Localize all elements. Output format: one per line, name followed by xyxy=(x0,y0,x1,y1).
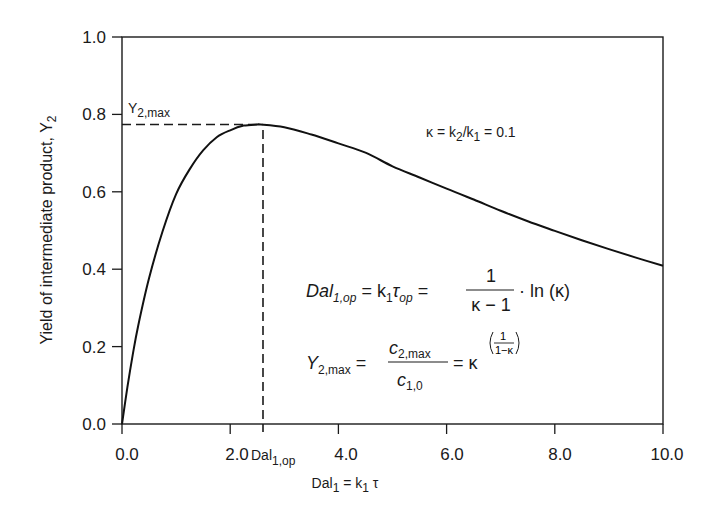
svg-text:· ln (κ): · ln (κ) xyxy=(519,281,570,301)
y-tick-label: 0.4 xyxy=(82,260,106,279)
y-tick-label: 0.8 xyxy=(82,105,106,124)
svg-text:c2,max: c2,max xyxy=(389,338,431,361)
equation-dal-op: Dal1,op = k1τop = 1 κ − 1 · ln (κ) xyxy=(306,266,570,315)
svg-text:Y2,max =: Y2,max = xyxy=(306,353,366,377)
y-tick-label: 1.0 xyxy=(82,28,106,47)
yield-curve xyxy=(122,124,663,424)
svg-text:κ − 1: κ − 1 xyxy=(471,295,511,315)
x-axis-label: Dal1 = k1 τ xyxy=(312,475,379,495)
equation-y2-max: Y2,max = c2,max c1,0 = κ 1 1−κ xyxy=(306,330,519,393)
x-tick-label: 8.0 xyxy=(548,445,572,464)
svg-text:c1,0: c1,0 xyxy=(397,370,423,393)
plot-frame xyxy=(122,37,663,424)
dalop-label: Dal1,op xyxy=(251,447,296,468)
y-axis-label: Yield of intermediate product, Y2 xyxy=(38,115,59,344)
x-axis-ticks xyxy=(122,424,663,434)
kappa-label: κ = k2/k1 = 0.1 xyxy=(426,124,516,144)
svg-text:Dal1,op = k1τop =: Dal1,op = k1τop = xyxy=(306,281,428,305)
x-tick-label: 2.0 xyxy=(225,445,249,464)
svg-text:1: 1 xyxy=(500,330,506,342)
y2max-label: Y2,max xyxy=(128,100,170,120)
y-tick-label: 0.2 xyxy=(82,338,106,357)
y-tick-label: 0.6 xyxy=(82,183,106,202)
svg-text:1−κ: 1−κ xyxy=(495,344,514,356)
chart: 0.0 0.2 0.4 0.6 0.8 1.0 0.0 2.0 4.0 6.0 … xyxy=(0,0,716,515)
x-tick-label: 6.0 xyxy=(440,445,464,464)
x-axis-tick-labels: 0.0 2.0 4.0 6.0 8.0 10.0 xyxy=(115,445,683,464)
x-tick-label: 4.0 xyxy=(334,445,358,464)
x-tick-label: 10.0 xyxy=(650,445,683,464)
x-tick-label: 0.0 xyxy=(115,445,139,464)
y-axis-ticks xyxy=(112,37,122,424)
y-tick-label: 0.0 xyxy=(82,415,106,434)
y-axis-tick-labels: 0.0 0.2 0.4 0.6 0.8 1.0 xyxy=(82,28,106,434)
svg-text:= κ: = κ xyxy=(453,353,479,373)
svg-text:1: 1 xyxy=(486,266,496,286)
